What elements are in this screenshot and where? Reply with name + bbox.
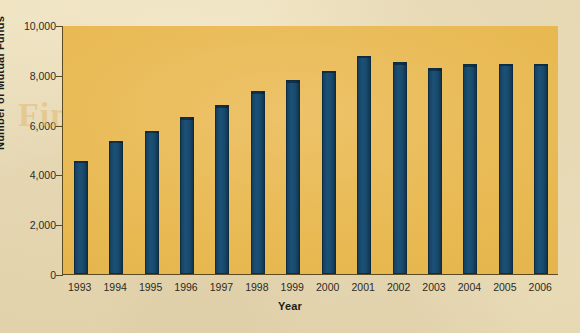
x-tick-label-1999: 1999 [281,281,304,293]
x-tick-label-1995: 1995 [139,281,162,293]
x-tick-label-2002: 2002 [387,281,410,293]
y-tick-mark [56,275,63,276]
y-tick-mark [56,175,63,176]
bar-1996 [180,117,194,274]
x-tick-label-1998: 1998 [245,281,268,293]
plot-area [62,26,558,275]
x-tick-label-2003: 2003 [422,281,445,293]
bar-2005 [499,64,513,274]
y-tick-label: 8,000 [30,70,56,82]
x-tick-label-1993: 1993 [68,281,91,293]
bar-1994 [109,141,123,274]
bar-2006 [534,64,548,275]
x-tick-label-1996: 1996 [174,281,197,293]
y-tick-mark [56,126,63,127]
chart-figure: Financial Markets Chapter Funds Number o… [0,0,580,333]
y-tick-mark [56,76,63,77]
y-tick-label: 2,000 [30,219,56,231]
bar-1993 [74,161,88,274]
x-tick-label-1997: 1997 [210,281,233,293]
y-tick-label: 4,000 [30,169,56,181]
bar-2002 [393,62,407,274]
x-tick-label-2001: 2001 [351,281,374,293]
y-axis-title: Number of Mutual Funds [0,16,6,150]
y-tick-label: 10,000 [24,20,56,32]
bar-1999 [286,80,300,274]
bar-2003 [428,68,442,274]
bar-2004 [463,64,477,274]
y-tick-mark [56,26,63,27]
bar-2000 [322,71,336,274]
x-tick-label-1994: 1994 [103,281,126,293]
bar-2001 [357,56,371,274]
bar-1998 [251,91,265,274]
bar-1995 [145,131,159,274]
y-tick-label: 6,000 [30,120,56,132]
x-axis-title: Year [0,300,580,312]
x-tick-label-2000: 2000 [316,281,339,293]
x-tick-label-2005: 2005 [493,281,516,293]
x-tick-label-2006: 2006 [529,281,552,293]
x-tick-label-2004: 2004 [458,281,481,293]
y-tick-mark [56,225,63,226]
bar-1997 [215,105,229,274]
